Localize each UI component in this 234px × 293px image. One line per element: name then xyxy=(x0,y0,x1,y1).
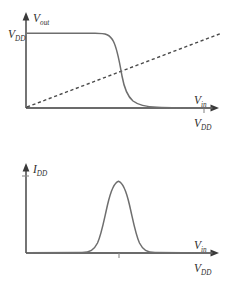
top-y-axis-label: Vout xyxy=(33,12,50,27)
bottom-x-axis-label: Vin xyxy=(194,239,207,254)
bottom-panel: IDD Vin VDD xyxy=(22,163,219,277)
bottom-vdd-x-label: VDD xyxy=(194,262,212,277)
top-y-axis-arrowhead xyxy=(23,12,30,21)
top-vdd-y-label: VDD xyxy=(8,28,26,43)
figure-root: VDD Vout Vin VDD xyxy=(0,0,234,293)
top-vdd-x-label: VDD xyxy=(194,117,212,132)
top-x-axis-label: Vin xyxy=(194,94,207,109)
inverter-characteristics-figure: VDD Vout Vin VDD xyxy=(0,0,234,293)
bottom-y-axis-arrowhead xyxy=(23,163,30,172)
top-panel: VDD Vout Vin VDD xyxy=(8,12,222,132)
idd-curve xyxy=(27,181,212,253)
bottom-y-axis-label: IDD xyxy=(32,163,48,178)
unity-gain-dashed-line xyxy=(27,33,222,107)
